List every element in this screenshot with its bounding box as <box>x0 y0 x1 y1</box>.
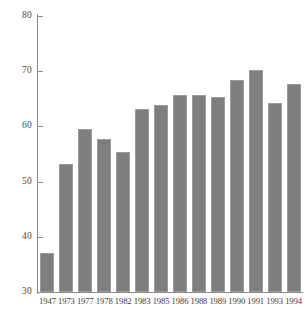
bar <box>230 80 244 292</box>
bar <box>78 129 92 292</box>
x-tick-label: 1988 <box>189 296 208 306</box>
x-tick-label: 1985 <box>152 296 171 306</box>
bars-layer <box>0 0 305 317</box>
x-tick-label: 1977 <box>76 296 95 306</box>
x-tick-label: 1983 <box>133 296 152 306</box>
x-tick-label: 1991 <box>246 296 265 306</box>
x-tick-label: 1993 <box>265 296 284 306</box>
bar <box>135 109 149 292</box>
bar <box>59 164 73 292</box>
x-tick-label: 1982 <box>114 296 133 306</box>
x-tick-label: 1989 <box>208 296 227 306</box>
x-tick-label: 1947 <box>38 296 57 306</box>
bar-chart: 304050607080 194719731977197819821983198… <box>0 0 305 317</box>
bar <box>97 139 111 292</box>
x-tick-label: 1973 <box>57 296 76 306</box>
x-tick-label: 1994 <box>284 296 303 306</box>
bar <box>154 105 168 292</box>
bar <box>211 97 225 292</box>
bar <box>287 84 301 292</box>
x-tick-label: 1990 <box>227 296 246 306</box>
bar <box>268 103 282 292</box>
x-tick-label: 1986 <box>171 296 190 306</box>
bar <box>192 95 206 292</box>
bar <box>249 70 263 292</box>
x-tick-label: 1978 <box>95 296 114 306</box>
bar <box>116 152 130 292</box>
bar <box>40 253 54 292</box>
bar <box>173 95 187 292</box>
